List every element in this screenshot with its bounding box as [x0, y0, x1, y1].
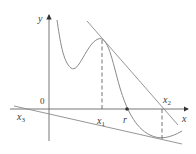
y-axis-label: y	[37, 13, 43, 24]
root-point	[125, 107, 129, 111]
origin-label: 0	[40, 96, 45, 106]
x-axis-label: x	[181, 113, 187, 124]
x3-label: x3	[16, 111, 25, 124]
x1-label: x1	[96, 115, 105, 128]
newton-method-diagram: y 0 x x3 x1 r x2	[0, 0, 196, 154]
x2-label: x2	[162, 94, 171, 107]
root-label: r	[123, 114, 127, 125]
